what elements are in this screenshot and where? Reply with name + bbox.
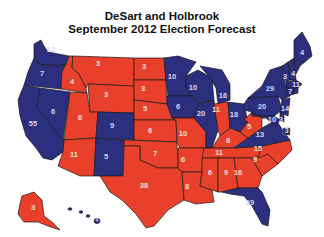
label-ny: 29: [266, 84, 274, 93]
label-az: 11: [70, 150, 78, 159]
label-wi: 10: [189, 83, 197, 92]
state-ia[interactable]: [167, 96, 198, 118]
state-ks[interactable]: [134, 120, 177, 142]
label-nj: 14: [281, 104, 290, 113]
us-electoral-map: 12 7 55 6 4 3 3 6 11 9 5 3 3 5 6 7 38 10…: [0, 0, 324, 237]
label-tn: 11: [215, 148, 223, 157]
label-sd: 3: [141, 84, 145, 93]
label-tx: 38: [140, 181, 148, 190]
label-ia: 6: [176, 102, 180, 111]
label-pa: 20: [258, 102, 266, 111]
state-ak[interactable]: [18, 192, 60, 230]
label-nd: 3: [142, 62, 146, 71]
label-il: 20: [197, 109, 205, 118]
state-nd[interactable]: [134, 58, 166, 80]
label-mo: 10: [179, 129, 187, 138]
label-in: 11: [212, 105, 220, 114]
label-fl: 29: [246, 198, 254, 207]
label-ma: 11: [292, 80, 300, 89]
label-ms: 6: [208, 168, 212, 177]
label-ar: 6: [181, 155, 185, 164]
label-wa: 12: [47, 45, 55, 54]
label-mt: 3: [96, 59, 100, 68]
label-nv: 6: [51, 107, 55, 116]
label-wy: 3: [104, 90, 108, 99]
label-mi: 16: [219, 91, 227, 100]
state-co[interactable]: [96, 112, 134, 140]
label-wv: 5: [247, 122, 251, 131]
label-oh: 18: [230, 110, 238, 119]
label-hi: 4: [96, 217, 99, 223]
state-nm[interactable]: [94, 138, 124, 176]
label-dc: 3: [284, 126, 288, 135]
label-ct: 7: [288, 87, 292, 96]
label-md: 10: [268, 115, 276, 124]
label-or: 7: [40, 69, 44, 78]
label-co: 9: [110, 121, 114, 130]
label-nm: 5: [104, 152, 108, 161]
label-ky: 8: [226, 136, 230, 145]
label-ca: 55: [29, 119, 37, 128]
label-al: 9: [224, 168, 228, 177]
label-mn: 10: [168, 72, 176, 81]
state-fl[interactable]: [222, 188, 270, 226]
label-ak: 3: [31, 203, 35, 212]
label-la: 8: [185, 182, 189, 191]
label-ne: 5: [143, 104, 147, 113]
label-ut: 6: [78, 113, 82, 122]
label-de: 3: [279, 115, 283, 124]
label-ok: 7: [153, 149, 157, 158]
label-nc: 15: [254, 144, 262, 153]
state-wy[interactable]: [88, 84, 134, 113]
label-ks: 6: [148, 126, 152, 135]
label-vt: 3: [283, 72, 287, 81]
label-sc: 9: [253, 155, 257, 164]
label-ga: 16: [234, 168, 242, 177]
label-va: 13: [256, 130, 264, 139]
